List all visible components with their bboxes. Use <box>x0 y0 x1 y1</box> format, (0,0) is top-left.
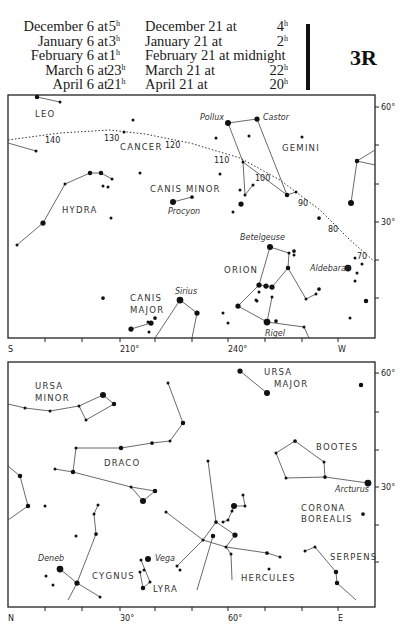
star <box>354 257 357 260</box>
star <box>288 252 291 255</box>
star <box>355 159 360 164</box>
star-name-label: Arcturus <box>334 485 369 494</box>
star <box>268 568 271 571</box>
constellation-line <box>228 123 253 195</box>
star <box>222 521 225 524</box>
star-name-label: Procyon <box>168 207 200 216</box>
star <box>35 95 40 100</box>
star <box>74 580 79 585</box>
star <box>271 296 274 299</box>
star <box>303 326 306 329</box>
star <box>99 171 104 176</box>
star-name-label: Aldebaran <box>309 264 351 273</box>
star <box>170 199 176 205</box>
constellation-line <box>73 448 76 472</box>
ecliptic-label: 140 <box>45 136 60 145</box>
star-name-label: Vega <box>155 554 175 563</box>
constellation-line <box>177 540 203 566</box>
star <box>314 546 317 549</box>
star <box>286 266 291 271</box>
constellation-label: LYRA <box>153 584 178 594</box>
star <box>214 520 218 524</box>
star <box>54 468 57 471</box>
star <box>132 119 135 122</box>
star <box>169 440 172 443</box>
star <box>128 326 133 331</box>
ecliptic-label: 120 <box>165 141 180 150</box>
star <box>225 120 231 126</box>
star <box>102 185 105 188</box>
star <box>230 553 233 556</box>
constellation-label: MAJOR <box>274 379 308 389</box>
star <box>235 303 240 308</box>
star <box>242 161 245 164</box>
star <box>26 504 31 509</box>
azimuth-label: 210° <box>120 345 139 354</box>
star <box>227 322 230 325</box>
star <box>301 136 304 139</box>
constellation-label: SERPENS <box>330 552 377 562</box>
star-name-label: Betelgeuse <box>240 233 285 242</box>
constellation-line <box>140 560 150 588</box>
star <box>167 382 170 385</box>
altitude-label: 30° <box>381 218 395 227</box>
star <box>219 173 222 176</box>
star-name-label: Rigel <box>265 329 286 338</box>
star <box>207 460 210 463</box>
constellation-label: CYGNUS <box>92 571 135 581</box>
star <box>354 280 357 283</box>
star <box>315 293 318 296</box>
star <box>64 183 67 186</box>
star <box>255 299 258 302</box>
south-sky-chart: 60°30°S210°240°W140130120110100908070LEO… <box>8 95 395 354</box>
constellation-line <box>55 469 155 491</box>
azimuth-label: W <box>338 345 346 354</box>
ecliptic-label: 110 <box>214 156 229 165</box>
star <box>107 186 110 189</box>
star <box>44 505 47 508</box>
star <box>93 513 96 516</box>
star <box>267 244 273 250</box>
altitude-label: 60° <box>381 369 395 378</box>
star <box>148 331 151 334</box>
star <box>242 494 245 497</box>
constellation-label: URSA <box>35 381 63 391</box>
star <box>279 556 282 559</box>
azimuth-label: 60° <box>228 614 242 623</box>
star <box>361 263 364 266</box>
constellation-label: BOREALIS <box>301 514 353 524</box>
star <box>222 312 225 315</box>
star <box>304 550 307 553</box>
star <box>364 299 369 304</box>
star <box>143 569 146 572</box>
star <box>59 101 62 104</box>
ecliptic-label: 70 <box>357 252 367 261</box>
star <box>232 532 237 537</box>
star <box>317 216 321 220</box>
star <box>147 321 150 324</box>
star <box>349 317 352 320</box>
star <box>348 200 354 206</box>
ecliptic-label: 130 <box>104 134 119 143</box>
star <box>231 510 234 513</box>
star <box>139 571 142 574</box>
star <box>323 461 326 464</box>
constellation-line <box>131 323 151 329</box>
star <box>264 390 270 396</box>
star <box>237 368 242 373</box>
star <box>52 584 55 587</box>
star <box>165 511 168 514</box>
star-name-label: Castor <box>263 113 290 122</box>
star <box>181 421 186 426</box>
constellation-label: ORION <box>224 265 258 275</box>
star <box>275 452 278 455</box>
star <box>110 217 113 220</box>
star <box>150 441 154 445</box>
star <box>248 135 251 138</box>
constellation-label: LEO <box>35 109 55 119</box>
star-name-label: Pollux <box>200 113 224 122</box>
ecliptic-label: 100 <box>255 174 270 183</box>
star <box>140 498 146 504</box>
star <box>244 194 247 197</box>
star <box>78 405 81 408</box>
